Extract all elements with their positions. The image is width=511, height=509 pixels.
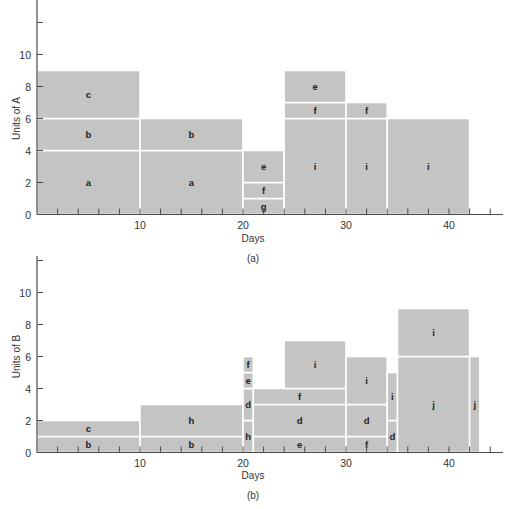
activity-label: e (297, 439, 302, 450)
x-tick-label: 40 (443, 457, 455, 469)
x-tick-label: 10 (134, 219, 146, 231)
activity-label: c (86, 423, 91, 434)
y-tick-label: 6 (25, 351, 31, 363)
activity-label: j (431, 399, 435, 410)
x-tick-label: 10 (134, 457, 146, 469)
activity-label: b (86, 439, 92, 450)
activity-blocks: bcbhhdefedfifdidijij (37, 309, 480, 453)
panel-caption: (b) (247, 490, 259, 501)
y-tick-label: 4 (25, 383, 31, 395)
activity-label: a (86, 177, 92, 188)
activity-label: b (189, 439, 195, 450)
activity-label: h (245, 431, 251, 442)
y-tick-label: 8 (25, 81, 31, 93)
activity-label: e (312, 81, 317, 92)
resource-loading-charts: abcabgfeifeifi102030400246810DaysUnits o… (0, 0, 511, 509)
activity-blocks: abcabgfeifeifi (37, 71, 470, 215)
y-tick-label: 2 (25, 177, 31, 189)
y-tick-label: 0 (25, 209, 31, 221)
chart-panel-b: bcbhhdefedfifdidijij102030400246810DaysU… (11, 256, 503, 501)
activity-label: d (364, 415, 370, 426)
activity-label: c (86, 89, 91, 100)
x-tick-label: 30 (340, 457, 352, 469)
activity-label: j (472, 399, 476, 410)
y-tick-label: 10 (19, 49, 31, 61)
y-tick-label: 6 (25, 113, 31, 125)
activity-label: i (314, 359, 317, 370)
panel-caption: (a) (247, 253, 259, 264)
activity-label: h (189, 415, 195, 426)
activity-label: e (261, 161, 266, 172)
activity-label: i (432, 327, 435, 338)
y-tick-label: 0 (25, 447, 31, 459)
activity-label: i (365, 161, 368, 172)
y-axis-label: Units of B (11, 335, 22, 379)
activity-label: b (86, 129, 92, 140)
y-tick-label: 4 (25, 145, 31, 157)
activity-label: b (189, 129, 195, 140)
x-tick-label: 40 (443, 219, 455, 231)
activity-label: i (391, 391, 394, 402)
y-tick-label: 8 (25, 319, 31, 331)
x-axis-label: Days (242, 233, 265, 244)
x-axis-label: Days (242, 470, 265, 481)
activity-label: d (297, 415, 303, 426)
x-tick-label: 30 (340, 219, 352, 231)
y-tick-label: 2 (25, 415, 31, 427)
activity-label: d (245, 399, 251, 410)
y-tick-label: 10 (19, 287, 31, 299)
activity-label: i (314, 161, 317, 172)
activity-label: i (365, 375, 368, 386)
activity-label: d (389, 431, 395, 442)
activity-label: e (246, 375, 251, 386)
x-tick-label: 20 (237, 219, 249, 231)
x-tick-label: 20 (237, 457, 249, 469)
activity-label: i (427, 161, 430, 172)
chart-panel-a: abcabgfeifeifi102030400246810DaysUnits o… (11, 0, 503, 264)
y-axis-label: Units of A (11, 97, 22, 140)
activity-label: a (189, 177, 195, 188)
